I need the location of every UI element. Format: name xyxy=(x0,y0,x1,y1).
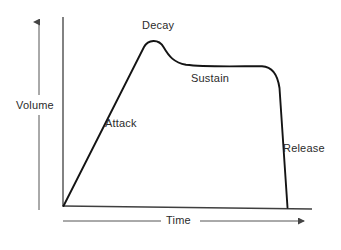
annotation-attack: Attack xyxy=(105,117,137,129)
annotation-sustain: Sustain xyxy=(191,72,229,84)
y-axis-label: Volume xyxy=(16,99,54,111)
x-axis-line xyxy=(62,206,312,209)
x-axis-label: Time xyxy=(166,214,191,226)
adsr-envelope-curve xyxy=(64,41,288,208)
envelope-chart-svg xyxy=(0,0,341,250)
annotation-decay: Decay xyxy=(142,19,174,31)
adsr-envelope-figure: Volume Time Attack Decay Sustain Release xyxy=(0,0,341,250)
annotation-release: Release xyxy=(283,142,325,154)
